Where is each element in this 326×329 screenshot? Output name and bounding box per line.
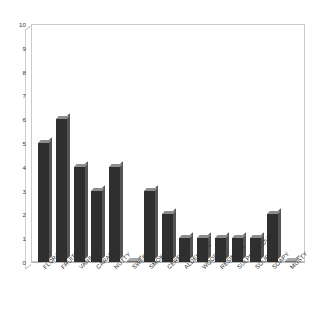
bar-slot [56,24,74,262]
bar-slot [162,24,180,262]
bar-top-face [109,164,123,167]
bar-slot [109,24,127,262]
bars-container [31,24,305,262]
y-axis-tick-label: 6 [6,117,26,123]
bar-front-face [38,143,49,262]
bar [38,143,49,262]
bar-side-face [120,161,123,259]
bar-slot [144,24,162,262]
bar [74,167,85,262]
y-axis-tick-label: 5 [6,141,26,147]
bar-slot [232,24,250,262]
y-axis-tick-label: 9 [6,46,26,52]
x-axis-labels: FLORALFRUITYVANILLACARAMELNUTTYSWEETSMOK… [31,266,321,328]
y-axis-tick-label: 7 [6,93,26,99]
y-axis-tick-label: 2 [6,212,26,218]
bar-side-face [278,209,281,259]
bar-slot [285,24,303,262]
bar-side-face [49,137,52,259]
y-axis-tick-label: 4 [6,165,26,171]
bar-top-face [144,188,158,191]
bar [56,119,67,262]
bar-slot [250,24,268,262]
bar-top-face [74,164,88,167]
y-axis: 109876543210 [6,24,26,269]
bar-slot [215,24,233,262]
bar-slot [127,24,145,262]
bar-side-face [102,185,105,259]
bar-slot [38,24,56,262]
bar-front-face [74,167,85,262]
bar-slot [91,24,109,262]
bar-slot [74,24,92,262]
bar-side-face [173,209,176,259]
y-axis-tick-label: 8 [6,69,26,75]
bar-slot [197,24,215,262]
y-axis-tick-label: 0 [6,260,26,266]
y-axis-tick-label: 1 [6,236,26,242]
y-axis-tick-label: 3 [6,188,26,194]
bar-side-face [85,161,88,259]
bar-chart: 109876543210 FLORALFRUITYVANILLACARAMELN… [0,0,326,329]
bar-side-face [155,185,158,259]
y-axis-tick-label: 10 [6,22,26,28]
bar-slot [267,24,285,262]
bar-slot [179,24,197,262]
bar-side-face [67,114,70,259]
bar-front-face [56,119,67,262]
